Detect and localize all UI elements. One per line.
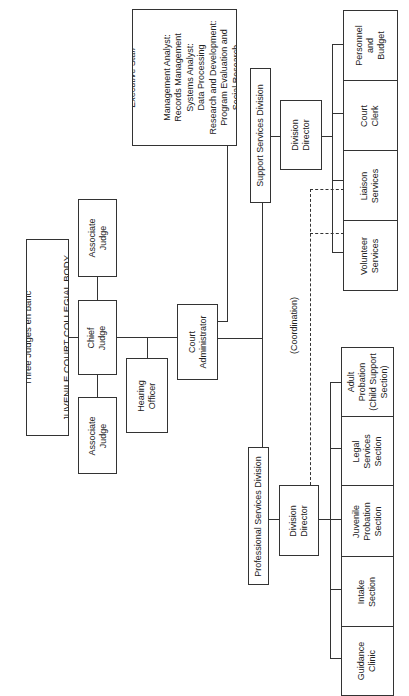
court-administrator-label: Court Administrator [187, 315, 209, 368]
support-unit-volunteer-services: Volunteer Services [343, 220, 398, 291]
collegial-body-line1: Three Judges en banc [26, 254, 35, 420]
support-unit-court-clerk: Court Clerk [343, 80, 398, 151]
support-unit-label: Volunteer Services [360, 236, 382, 274]
connector-prof-director [268, 519, 279, 520]
connector-chief-assoc-top [97, 277, 98, 300]
prof-bracket [330, 382, 331, 659]
associate-judge-top-label: Associate Judge [87, 218, 109, 257]
prof-unit-label: Intake Section [357, 576, 379, 606]
professional-director-box: Division Director [279, 485, 319, 556]
prof-unit-label: Guidance Clinic [357, 642, 379, 681]
associate-judge-bottom-label: Associate Judge [87, 416, 109, 455]
connector-admin-exec-v [227, 146, 228, 322]
professional-director-label: Division Director [288, 505, 310, 537]
executive-staff-title: Executive Staff [132, 20, 139, 134]
coordination-label-wrap: (Coordination) [285, 295, 305, 355]
coordination-dash-volunteer [310, 233, 344, 234]
connector-admin-trunk [218, 338, 263, 339]
professional-division-label: Professional Services Division [253, 456, 264, 577]
connector-hearing-officer [147, 337, 148, 358]
prof-unit-label: Juvenile Probation Section [351, 502, 384, 541]
connector-chief-assoc-bottom [97, 375, 98, 397]
collegial-body-box: Three Judges en banc JUVENILE COURT COLL… [26, 239, 69, 436]
support-division-label: Support Services Division [255, 84, 266, 187]
support-bracket [332, 44, 333, 253]
support-director-label: Division Director [290, 119, 312, 151]
prof-unit-label: Legal Services Section [351, 434, 384, 469]
professional-division-box: Professional Services Division [248, 447, 269, 585]
support-division-box: Support Services Division [250, 68, 271, 203]
support-unit-liaison-services: Liaison Services [343, 150, 398, 221]
associate-judge-bottom-box: Associate Judge [78, 397, 117, 474]
support-unit-label: Liaison Services [359, 168, 381, 203]
connector-collegial-chief [68, 337, 78, 338]
associate-judge-top-box: Associate Judge [78, 199, 117, 277]
prof-unit-juvenile-probation: Juvenile Probation Section [341, 485, 394, 557]
connector-support-director [270, 136, 280, 137]
division-trunk [262, 202, 263, 448]
coordination-label: (Coordination) [290, 296, 301, 353]
court-administrator-box: Court Administrator [177, 304, 218, 380]
executive-staff-body: Management Analyst: Records Management S… [162, 20, 237, 134]
chief-judge-label: Chief Judge [87, 325, 109, 350]
hearing-officer-box: Hearing Officer [126, 358, 168, 433]
prof-unit-legal-services: Legal Services Section [341, 416, 394, 486]
support-unit-label: Personnel and Budget [354, 25, 387, 66]
prof-unit-guidance-clinic: Guidance Clinic [341, 626, 394, 696]
collegial-body-line2: JUVENILE COURT COLLEGIAL BODY [61, 254, 70, 420]
support-unit-label: Court Clerk [359, 104, 381, 126]
support-director-box: Division Director [280, 100, 322, 170]
prof-unit-intake: Intake Section [341, 556, 394, 627]
support-unit-personnel-budget: Personnel and Budget [343, 10, 398, 81]
prof-unit-label: Adult Probation (Child Support Section) [346, 353, 390, 411]
executive-staff-box: Executive Staff Management Analyst: Reco… [132, 9, 237, 146]
hearing-officer-label: Hearing Officer [136, 380, 158, 412]
coordination-dash-liaison [310, 189, 344, 190]
prof-unit-adult-probation: Adult Probation (Child Support Section) [341, 347, 394, 417]
chief-judge-box: Chief Judge [78, 300, 117, 375]
